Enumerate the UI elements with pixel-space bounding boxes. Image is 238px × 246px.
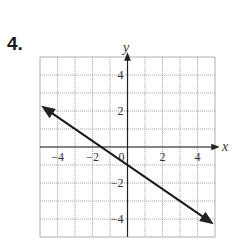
y-tick-label: 2 [118, 104, 124, 118]
x-tick-label: 2 [160, 150, 166, 164]
x-tick-label: −2 [86, 150, 99, 164]
y-tick-label: −2 [111, 176, 124, 190]
y-axis-label: y [121, 40, 130, 55]
x-axis-label: x [221, 139, 229, 154]
coordinate-plane: −4−22442−2−40 x y [0, 0, 238, 246]
x-tick-label: 4 [195, 150, 201, 164]
x-tick-label: −4 [51, 150, 64, 164]
y-tick-label: 4 [118, 68, 124, 82]
y-tick-label: −4 [111, 212, 124, 226]
